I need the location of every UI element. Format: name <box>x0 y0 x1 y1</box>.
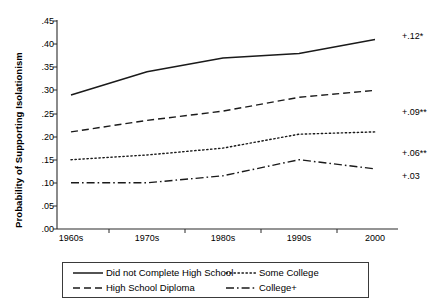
series-line-high-school-diploma <box>71 90 375 132</box>
annotation-did-not-complete-high-school: +.12* <box>402 31 423 41</box>
y-tick-marks <box>53 21 57 229</box>
legend-label-high-school-diploma: High School Diploma <box>106 282 195 293</box>
legend: Did not Complete High School High School… <box>62 262 369 298</box>
series-line-some-college <box>71 132 375 160</box>
series-line-did-not-complete-high-school <box>71 40 375 96</box>
series-line-college-plus <box>71 160 375 183</box>
legend-label-some-college: Some College <box>259 267 319 278</box>
legend-label-did-not-complete-high-school: Did not Complete High School <box>106 267 233 278</box>
annotation-some-college: +.06** <box>402 148 427 158</box>
plot-area <box>0 0 435 306</box>
chart-figure: Probability of Supporting Isolationism .… <box>0 0 435 306</box>
x-tick-marks <box>109 229 337 233</box>
annotation-high-school-diploma: +.09** <box>402 107 427 117</box>
legend-label-college-plus: College+ <box>259 282 297 293</box>
annotation-college-plus: +.03 <box>402 171 420 181</box>
